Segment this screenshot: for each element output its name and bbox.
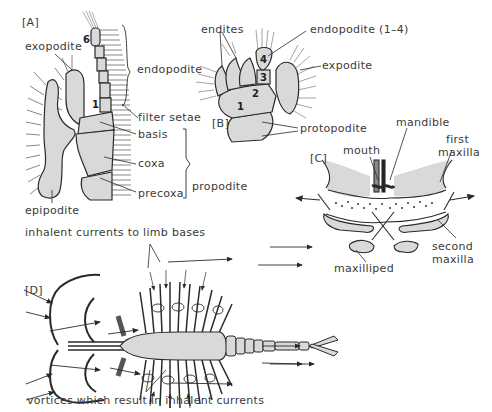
panel-c-tag: [C] xyxy=(310,153,327,165)
label-mandible: mandible xyxy=(396,117,450,129)
label-endopodite-1-4: endopodite (1–4) xyxy=(310,24,409,36)
label-inhalent-currents: inhalent currents to limb bases xyxy=(25,227,205,239)
label-expodite: expodite xyxy=(322,60,372,72)
segment-number-1: 1 xyxy=(92,100,99,110)
panel-d-tag: [D] xyxy=(25,285,43,297)
label-protopodite: protopodite xyxy=(300,123,367,135)
label-exopodite: exopodite xyxy=(25,41,82,53)
label-mouth: mouth xyxy=(343,145,380,157)
panel-d-crustacean xyxy=(24,244,338,408)
label-first-maxilla-line2: maxilla xyxy=(438,147,480,159)
segment-number-4: 4 xyxy=(260,55,267,65)
segment-number-1: 1 xyxy=(237,102,244,112)
panel-a-tag: [A] xyxy=(22,17,39,29)
label-epipodite: epipodite xyxy=(25,205,79,217)
label-maxilliped: maxilliped xyxy=(334,263,394,275)
panel-b-tag: [B] xyxy=(212,118,229,130)
segment-number-2: 2 xyxy=(252,89,259,99)
label-precoxa: precoxa xyxy=(138,188,184,200)
label-first-maxilla-line1: first xyxy=(446,134,469,146)
label-second-maxilla-line1: second xyxy=(432,241,473,253)
panel-c-mouthparts xyxy=(296,160,474,253)
label-vortices: vortices which result in inhalent curren… xyxy=(27,395,264,407)
label-basis: basis xyxy=(138,129,168,141)
label-endopodite: endopodite xyxy=(137,64,202,76)
label-propodite: propodite xyxy=(192,181,248,193)
label-coxa: coxa xyxy=(138,158,165,170)
segment-number-3: 3 xyxy=(260,73,267,83)
label-endites: endites xyxy=(201,24,244,36)
label-second-maxilla-line2: maxilla xyxy=(432,254,474,266)
label-filter-setae: filter setae xyxy=(138,112,201,124)
segment-number-6: 6 xyxy=(83,35,90,45)
